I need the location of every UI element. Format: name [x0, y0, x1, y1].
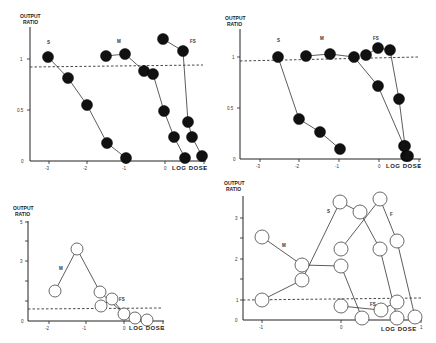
y-tick: 3 — [20, 259, 23, 264]
x-tick: -1 — [259, 325, 263, 330]
y-axis-label-2: RATIO — [15, 211, 30, 217]
panel-bottom-left: OUTPUT RATIO 5 3 0 -2 -1 0 1 LOG DOSE M … — [13, 205, 165, 331]
series-label-s: S — [277, 38, 280, 43]
y-tick: 5 — [20, 220, 23, 225]
series-label-f: F — [390, 212, 393, 217]
panel-top-left: OUTPUT RATIO 1 0.5 0 -3 -2 -1 0 1 LOG DO… — [17, 13, 208, 171]
y-tick: 0.5 — [17, 108, 24, 113]
series-label-m: M — [282, 243, 286, 248]
y-tick: 1 — [236, 298, 239, 303]
y-tick: 0 — [21, 319, 24, 324]
y-tick: 3 — [235, 216, 238, 221]
y-tick: 0 — [235, 318, 238, 323]
x-tick: -2 — [45, 326, 49, 331]
y-axis-label-2: RATIO — [226, 186, 241, 192]
x-tick: -3 — [256, 164, 260, 169]
series-label-fs: FS — [370, 302, 376, 307]
x-tick: 0 — [378, 164, 381, 169]
series-label-fs: FS — [373, 36, 379, 41]
x-tick: 0 — [164, 166, 167, 171]
x-tick: -3 — [45, 166, 49, 171]
x-tick: -1 — [82, 326, 86, 331]
x-axis-label: LOG DOSE — [381, 326, 417, 332]
x-tick: -2 — [295, 164, 299, 169]
series-label-m: M — [320, 36, 324, 41]
x-tick: -1 — [122, 166, 126, 171]
series-label-s: S — [47, 40, 50, 45]
y-axis-label-2: RATIO — [23, 19, 38, 25]
figure-four-panel: OUTPUT RATIO 1 0.5 0 -3 -2 -1 0 1 LOG DO… — [0, 0, 436, 343]
y-tick: 0.5 — [227, 106, 234, 111]
y-tick: 2 — [235, 257, 238, 262]
x-tick: 0 — [123, 326, 126, 331]
y-tick: 0 — [21, 159, 24, 164]
y-axis-label-2: RATIO — [227, 21, 242, 27]
panel-top-right: OUTPUT RATIO 1 0.5 0 -3 -2 -1 0 1 LOG DO… — [225, 15, 422, 169]
x-tick: -2 — [83, 166, 87, 171]
series-label-fs: FS — [119, 297, 125, 302]
series-label-fs: FS — [190, 39, 196, 44]
y-tick: 1 — [232, 55, 235, 60]
panel-bottom-right: OUTPUT RATIO 3 2 1 0 -1 0 1 LOG DOSE S M… — [224, 180, 423, 332]
x-tick: -1 — [335, 164, 339, 169]
x-tick: 1 — [420, 325, 423, 330]
series-label-m: M — [59, 266, 63, 271]
series-label-m: M — [117, 39, 121, 44]
x-axis-label: LOG DOSE — [386, 163, 422, 169]
y-tick: 1 — [20, 57, 23, 62]
x-axis-label: LOG DOSE — [172, 165, 208, 171]
x-tick: 0 — [340, 325, 343, 330]
series-label-s: S — [327, 209, 330, 214]
y-tick: 0 — [233, 157, 236, 162]
